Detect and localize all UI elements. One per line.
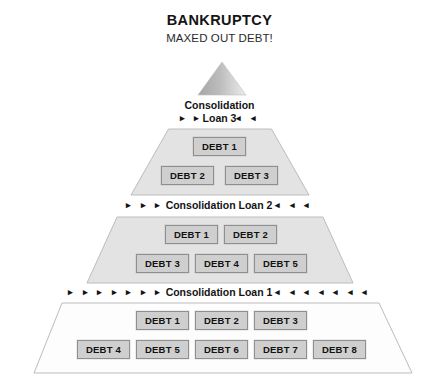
debt-box-tier3-r2c3[interactable]: DEBT 5 bbox=[254, 254, 307, 273]
loan-3-label-line1: Consolidation bbox=[0, 99, 439, 112]
debt-box-tier2-r2c2[interactable]: DEBT 3 bbox=[225, 166, 278, 185]
debt-box-tier4-r2c4[interactable]: DEBT 7 bbox=[254, 340, 307, 359]
arrow-right-icons-loan-3: ▸ ▸ bbox=[180, 113, 203, 123]
pyramid-tier-3 bbox=[86, 216, 354, 284]
page-subtitle: MAXED OUT DEBT! bbox=[0, 31, 439, 46]
apex-triangle-bankruptcy bbox=[196, 60, 248, 97]
debt-box-tier4-r2c3[interactable]: DEBT 6 bbox=[195, 340, 248, 359]
arrow-right-icons-loan-1: ▸ ▸ ▸ ▸ ▸ ▸ ▸ bbox=[68, 287, 164, 297]
loan-band-loan-2: ▸ ▸ ▸Consolidation Loan 2◂ ◂ ◂ bbox=[0, 199, 439, 211]
debt-box-tier4-r1c1[interactable]: DEBT 1 bbox=[136, 311, 189, 330]
arrow-left-icons-loan-2: ◂ ◂ ◂ bbox=[275, 200, 313, 210]
debt-box-tier4-r2c2[interactable]: DEBT 5 bbox=[136, 340, 189, 359]
arrow-left-icons-loan-1: ◂ ◂ ◂ ◂ ◂ ◂ ◂ bbox=[275, 287, 371, 297]
page-title: BANKRUPTCY bbox=[0, 12, 439, 29]
debt-box-tier4-r1c2[interactable]: DEBT 2 bbox=[195, 311, 248, 330]
pyramid-tier-3-shape bbox=[86, 216, 354, 284]
loan-3-label-line2: ▸ ▸Loan 3◂ ◂ bbox=[0, 112, 439, 125]
loan-band-loan-3: Consolidation ▸ ▸Loan 3◂ ◂ bbox=[0, 99, 439, 125]
debt-box-tier3-r2c1[interactable]: DEBT 3 bbox=[136, 254, 189, 273]
debt-box-tier3-r2c2[interactable]: DEBT 4 bbox=[195, 254, 248, 273]
diagram-heading: BANKRUPTCY MAXED OUT DEBT! bbox=[0, 12, 439, 46]
debt-box-tier4-r2c1[interactable]: DEBT 4 bbox=[77, 340, 130, 359]
debt-box-tier2-r2c1[interactable]: DEBT 2 bbox=[161, 166, 214, 185]
loan-3-label-text: Loan 3 bbox=[203, 112, 237, 124]
debt-pyramid-diagram: BANKRUPTCY MAXED OUT DEBT! Consolidation… bbox=[0, 0, 439, 392]
debt-box-tier4-r1c3[interactable]: DEBT 3 bbox=[254, 311, 307, 330]
apex-triangle-shape bbox=[196, 60, 248, 97]
loan-band-loan-1: ▸ ▸ ▸ ▸ ▸ ▸ ▸Consolidation Loan 1◂ ◂ ◂ ◂… bbox=[0, 286, 439, 298]
debt-box-tier2-r1c1[interactable]: DEBT 1 bbox=[193, 137, 246, 156]
arrow-left-icons-loan-3: ◂ ◂ bbox=[236, 113, 259, 123]
loan-1-label: Consolidation Loan 1 bbox=[166, 286, 273, 298]
debt-box-tier3-r1c1[interactable]: DEBT 1 bbox=[165, 225, 218, 244]
arrow-right-icons-loan-2: ▸ ▸ ▸ bbox=[126, 200, 164, 210]
loan-2-label: Consolidation Loan 2 bbox=[166, 199, 273, 211]
debt-box-tier4-r2c5[interactable]: DEBT 8 bbox=[313, 340, 366, 359]
debt-box-tier3-r1c2[interactable]: DEBT 2 bbox=[224, 225, 277, 244]
